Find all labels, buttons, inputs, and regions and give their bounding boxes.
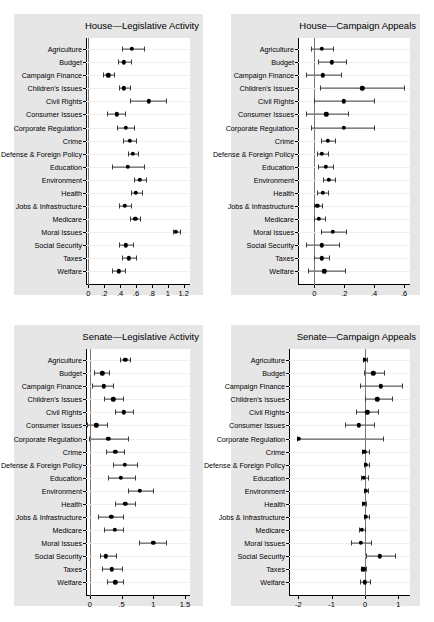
category-label: Agriculture: [48, 356, 82, 365]
point-estimate-marker: [326, 178, 330, 182]
point-estimate-marker: [358, 541, 362, 545]
confidence-interval-cap: [128, 436, 129, 441]
confidence-interval-cap: [117, 125, 118, 130]
x-axis-tick: [332, 596, 333, 599]
confidence-interval: [100, 556, 116, 557]
y-axis-tick: [83, 193, 86, 194]
confidence-interval-cap: [130, 217, 131, 222]
y-axis-tick: [286, 439, 289, 440]
confidence-interval-cap: [87, 423, 88, 428]
y-axis-tick: [83, 180, 86, 181]
category-label: Children's Issues: [27, 395, 82, 404]
confidence-interval-cap: [142, 190, 143, 195]
confidence-interval-cap: [360, 384, 361, 389]
panel-title: Senate—Legislative Activity: [82, 331, 199, 342]
confidence-interval-cap: [128, 151, 129, 156]
x-axis-tick: [365, 596, 366, 599]
confidence-interval-cap: [115, 410, 116, 415]
y-axis-tick: [286, 530, 289, 531]
gridline: [289, 452, 410, 453]
confidence-interval-cap: [339, 243, 340, 248]
confidence-interval-cap: [404, 86, 405, 91]
confidence-interval: [308, 271, 345, 272]
point-estimate-marker: [115, 112, 119, 116]
y-axis-tick: [83, 399, 86, 400]
category-label: Children's Issues: [27, 84, 82, 93]
plot-area: 0.511.5AgricultureBudgetCampaign Finance…: [86, 349, 190, 596]
gridline: [86, 530, 190, 531]
y-axis-tick: [83, 556, 86, 557]
x-axis-tick: [90, 596, 91, 599]
x-axis-tick-label: 0: [88, 600, 92, 609]
confidence-interval-cap: [123, 580, 124, 585]
y-axis-tick: [295, 114, 298, 115]
y-axis-tick: [83, 101, 86, 102]
category-label: Medicare: [255, 526, 285, 535]
confidence-interval-cap: [314, 217, 315, 222]
confidence-interval-cap: [370, 580, 371, 585]
y-axis-tick: [83, 49, 86, 50]
x-axis-tick: [374, 285, 375, 288]
confidence-interval-cap: [351, 541, 352, 546]
confidence-interval-cap: [102, 567, 103, 572]
y-axis-tick: [83, 465, 86, 466]
category-label: Education: [50, 162, 82, 171]
category-label: Environment: [245, 486, 285, 495]
gridline: [289, 504, 410, 505]
gridline: [289, 465, 410, 466]
point-estimate-marker: [365, 410, 369, 414]
y-axis-tick: [295, 206, 298, 207]
y-axis-tick: [83, 75, 86, 76]
panel-senate-campaign-appeals: Senate—Campaign Appeals -2-101Agricultur…: [217, 311, 434, 622]
x-axis-tick-label: .2: [341, 289, 347, 298]
point-estimate-marker: [138, 178, 142, 182]
confidence-interval-cap: [125, 112, 126, 117]
y-axis-tick: [295, 193, 298, 194]
confidence-interval-cap: [109, 371, 110, 376]
point-estimate-marker: [127, 256, 131, 260]
category-label: Civil Rights: [46, 97, 82, 106]
category-label: Civil Rights: [46, 408, 82, 417]
gridline: [86, 271, 190, 272]
y-axis-tick: [83, 412, 86, 413]
category-label: Defense & Foreign Policy: [213, 149, 294, 158]
y-axis-tick: [286, 543, 289, 544]
confidence-interval-cap: [180, 230, 181, 235]
gridline: [289, 478, 410, 479]
y-axis-tick: [295, 101, 298, 102]
category-label: Moral Issues: [244, 539, 285, 548]
y-axis-tick: [286, 425, 289, 426]
confidence-interval-cap: [118, 60, 119, 65]
gridline: [86, 258, 190, 259]
y-axis-tick: [83, 504, 86, 505]
category-label: Health: [61, 499, 82, 508]
confidence-interval-cap: [135, 475, 136, 480]
x-axis-tick-label: 1.5: [180, 600, 190, 609]
confidence-interval-cap: [112, 269, 113, 274]
confidence-interval-cap: [136, 256, 137, 261]
confidence-interval-cap: [368, 475, 369, 480]
category-label: Budget: [59, 369, 82, 378]
point-estimate-marker: [123, 243, 127, 247]
y-axis-tick: [83, 530, 86, 531]
x-axis-tick-label: 1: [151, 600, 155, 609]
point-estimate-marker: [147, 99, 151, 103]
confidence-interval-cap: [122, 47, 123, 52]
category-label: Education: [50, 473, 82, 482]
confidence-interval-cap: [306, 243, 307, 248]
point-estimate-marker: [362, 449, 366, 453]
gridline: [298, 154, 410, 155]
point-estimate-marker: [359, 528, 363, 532]
category-label: Taxes: [266, 565, 285, 574]
y-axis-tick: [295, 232, 298, 233]
point-estimate-marker: [297, 436, 301, 440]
confidence-interval-cap: [345, 423, 346, 428]
confidence-interval-cap: [116, 554, 117, 559]
confidence-interval-cap: [368, 488, 369, 493]
gridline: [86, 452, 190, 453]
confidence-interval-cap: [374, 423, 375, 428]
category-label: Moral Issues: [41, 228, 82, 237]
confidence-interval-cap: [306, 73, 307, 78]
confidence-interval-cap: [106, 449, 107, 454]
category-label: Defense & Foreign Policy: [1, 149, 82, 158]
